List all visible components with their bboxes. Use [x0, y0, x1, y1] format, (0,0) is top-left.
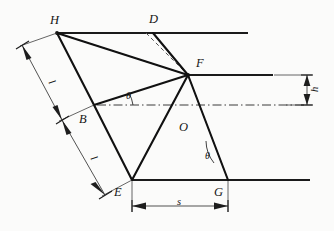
point-label-O: O [179, 121, 188, 134]
arrowhead-l-lower-top [62, 120, 72, 135]
point-label-H: H [50, 14, 59, 27]
link-B-E [94, 105, 132, 180]
figure-canvas: H D F B O E G l l s h θ θ [0, 0, 334, 231]
arrowhead-l-upper-bottom [53, 105, 63, 120]
dimension-label-h: h [310, 87, 321, 92]
tick-slash-B [56, 116, 69, 124]
point-label-F: F [196, 57, 204, 70]
point-label-D: D [149, 13, 158, 26]
arrowhead-s-left [132, 203, 146, 210]
dimension-label-s: s [177, 197, 181, 208]
point-label-E: E [114, 186, 122, 199]
angle-label-theta-upper: θ [126, 91, 131, 101]
arrowhead-h-bottom [304, 94, 311, 105]
link-H-F [57, 33, 188, 75]
angle-label-theta-lower: θ [205, 151, 210, 161]
arrowhead-s-right [214, 203, 228, 210]
extension-line-H [20, 33, 57, 46]
link-F-G [188, 75, 228, 180]
arrowhead-h-top [304, 75, 311, 86]
point-label-G: G [214, 186, 223, 199]
arrowhead-l-lower-bottom [91, 182, 106, 195]
joint-F [186, 73, 190, 77]
dimension-arrowheads [22, 45, 310, 209]
angle-arcs [129, 93, 214, 163]
tick-slash-H [16, 41, 29, 49]
arrowhead-l-upper-top [22, 45, 32, 60]
geometry-diagram-svg [0, 0, 334, 231]
tick-slash-E [99, 191, 112, 199]
point-label-B: B [79, 113, 87, 126]
